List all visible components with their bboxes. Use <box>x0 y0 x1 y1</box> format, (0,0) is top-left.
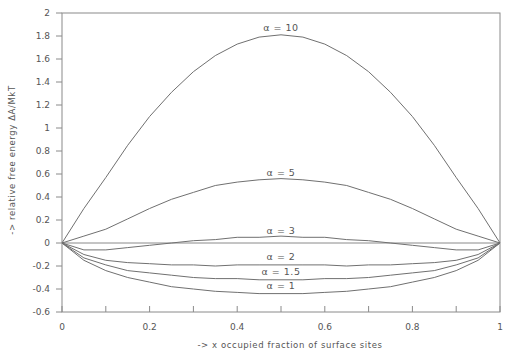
y-tick-label: 0.8 <box>36 146 51 156</box>
y-tick-label: 1.6 <box>36 54 51 64</box>
curve-label: α = 2 <box>267 251 296 262</box>
curve-label: α = 10 <box>263 22 298 33</box>
free-energy-chart: 21.81.61.41.210.80.60.40.20-0.2-0.4-0.6 … <box>0 0 509 361</box>
x-tick-label: 0.8 <box>405 322 420 332</box>
x-axis-ticks: 00.20.40.60.81 <box>59 306 503 332</box>
x-tick-label: 0.6 <box>318 322 333 332</box>
y-axis-label: -> relative free energy ΔA/MkT <box>7 85 17 235</box>
y-tick-label: 1 <box>44 123 50 133</box>
curve-label: α = 3 <box>267 225 296 236</box>
curve-labels: α = 10α = 5α = 3α = 2α = 1.5α = 1 <box>262 22 301 291</box>
y-tick-label: -0.6 <box>32 307 50 317</box>
curve-label: α = 1.5 <box>262 266 301 277</box>
y-tick-label: -0.4 <box>32 284 50 294</box>
y-tick-label: -0.2 <box>32 261 50 271</box>
y-tick-label: 1.2 <box>36 100 50 110</box>
curve-label: α = 1 <box>267 280 296 291</box>
y-tick-label: 0.4 <box>36 192 51 202</box>
y-tick-label: 2 <box>44 8 50 18</box>
curve-label: α = 5 <box>267 167 296 178</box>
x-tick-label: 0.4 <box>230 322 245 332</box>
y-tick-label: 1.4 <box>36 77 51 87</box>
x-tick-label: 1 <box>497 322 503 332</box>
y-tick-label: 1.8 <box>36 31 51 41</box>
y-tick-label: 0 <box>44 238 50 248</box>
x-tick-label: 0 <box>59 322 65 332</box>
y-tick-label: 0.6 <box>36 169 51 179</box>
x-axis-label: -> x occupied fraction of surface sites <box>197 340 382 350</box>
y-axis-ticks: 21.81.61.41.210.80.60.40.20-0.2-0.4-0.6 <box>32 8 62 317</box>
y-tick-label: 0.2 <box>36 215 50 225</box>
x-tick-label: 0.2 <box>142 322 156 332</box>
curve <box>62 35 500 243</box>
